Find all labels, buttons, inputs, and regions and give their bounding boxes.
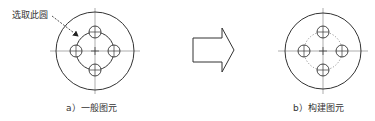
caption-figure-a: a）一般图元 [66, 101, 117, 114]
caption-figure-b: b）构建图元 [293, 101, 344, 114]
transform-arrow-icon [193, 28, 234, 72]
figure-b-construction-element [278, 8, 368, 94]
figure-a-general-element [50, 8, 140, 94]
annotation-select-circle: 选取此圆 [12, 8, 48, 21]
